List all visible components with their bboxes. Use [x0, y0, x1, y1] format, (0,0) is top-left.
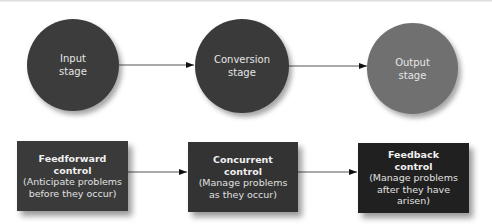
output-stage-label-line2: stage: [399, 69, 427, 82]
output-stage-label-line1: Output: [395, 56, 430, 69]
concurrent-title-line1: Concurrent: [213, 154, 273, 166]
concurrent-desc-line2: as they occur): [209, 189, 277, 201]
feedforward-desc-line2: before they occur): [29, 188, 117, 200]
feedforward-desc-line1: (Anticipate problems: [23, 176, 122, 188]
feedback-desc-line1: (Manage problems: [369, 172, 458, 184]
input-stage-circle: Input stage: [27, 19, 119, 111]
output-stage-circle: Output stage: [367, 23, 458, 114]
feedback-control-box: Feedback control (Manage problems after …: [358, 143, 469, 213]
concurrent-title-line2: control: [224, 166, 262, 178]
input-stage-label-line1: Input: [60, 52, 86, 65]
concurrent-control-box: Concurrent control (Manage problems as t…: [188, 142, 298, 212]
conversion-stage-label-line1: Conversion: [214, 53, 270, 66]
concurrent-desc-line1: (Manage problems: [199, 177, 288, 189]
feedback-title-line1: Feedback: [388, 149, 439, 161]
conversion-stage-circle: Conversion stage: [195, 19, 289, 113]
feedback-desc-line2: after they have arisen): [360, 184, 467, 207]
input-stage-label-line2: stage: [59, 65, 87, 78]
feedback-title-line2: control: [395, 161, 433, 173]
feedforward-title-line2: control: [54, 165, 92, 177]
conversion-stage-label-line2: stage: [228, 66, 256, 79]
feedforward-control-box: Feedforward control (Anticipate problems…: [17, 141, 128, 211]
feedforward-title-line1: Feedforward: [39, 153, 107, 165]
